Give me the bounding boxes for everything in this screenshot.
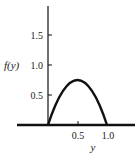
x-tick-label: 0.5	[72, 130, 85, 141]
y-axis-label: f(y)	[4, 59, 20, 72]
x-axis-label: y	[90, 141, 96, 153]
y-tick-label: 1.0	[31, 60, 44, 71]
y-tick-label: 0.5	[31, 90, 44, 101]
density-curve	[48, 80, 107, 125]
density-chart: 1.5 1.0 0.5 0.5 1.0 f(y) y	[0, 0, 138, 158]
y-tick-label: 1.5	[31, 30, 44, 41]
x-tick-label: 1.0	[102, 130, 115, 141]
